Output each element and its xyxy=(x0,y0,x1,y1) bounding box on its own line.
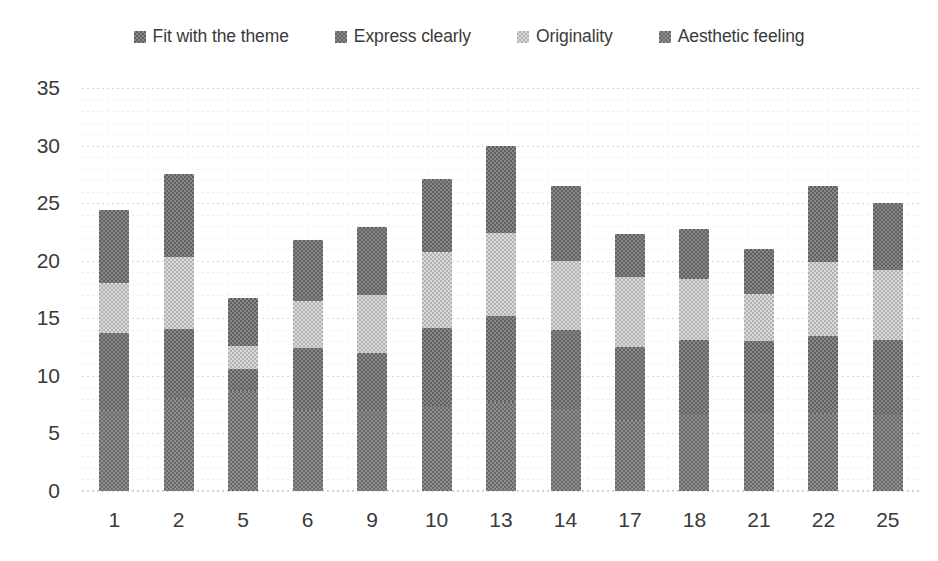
stacked-bar[interactable]: 1 xyxy=(99,210,129,491)
bar-segment-2[interactable] xyxy=(808,262,838,336)
bar-segment-0[interactable] xyxy=(744,413,774,491)
legend-label: Aesthetic feeling xyxy=(678,26,805,47)
stacked-bar-chart: Fit with the themeExpress clearlyOrigina… xyxy=(0,0,938,561)
bar-segment-1[interactable] xyxy=(486,316,516,402)
stacked-bar[interactable]: 18 xyxy=(679,228,709,491)
stacked-bar[interactable]: 5 xyxy=(228,298,258,491)
x-axis-tick-label: 10 xyxy=(425,508,448,532)
bars-container: 125691013141718212225 xyxy=(82,88,920,491)
bar-segment-3[interactable] xyxy=(357,227,387,295)
bar-segment-2[interactable] xyxy=(422,252,452,328)
plot-area: 05101520253035 125691013141718212225 xyxy=(82,88,920,491)
stacked-bar[interactable]: 2 xyxy=(164,174,194,491)
stacked-bar[interactable]: 25 xyxy=(873,203,903,491)
y-axis-tick-label: 30 xyxy=(37,134,82,158)
bar-slot: 13 xyxy=(469,88,533,491)
bar-segment-3[interactable] xyxy=(615,234,645,277)
y-axis-tick-label: 35 xyxy=(37,76,82,100)
bar-segment-3[interactable] xyxy=(551,186,581,261)
bar-segment-0[interactable] xyxy=(486,402,516,491)
bar-segment-1[interactable] xyxy=(873,340,903,415)
bar-segment-3[interactable] xyxy=(99,210,129,283)
bar-segment-3[interactable] xyxy=(164,174,194,257)
stacked-bar[interactable]: 9 xyxy=(357,227,387,491)
bar-segment-2[interactable] xyxy=(551,261,581,330)
bar-segment-3[interactable] xyxy=(744,249,774,294)
bar-segment-2[interactable] xyxy=(873,270,903,340)
bar-segment-2[interactable] xyxy=(293,301,323,348)
x-axis-tick-label: 1 xyxy=(108,508,120,532)
legend-item-2[interactable]: Originality xyxy=(517,26,613,47)
bar-segment-0[interactable] xyxy=(808,413,838,491)
bar-segment-0[interactable] xyxy=(551,409,581,491)
bar-segment-1[interactable] xyxy=(422,328,452,407)
stacked-bar[interactable]: 13 xyxy=(486,146,516,491)
stacked-bar[interactable]: 14 xyxy=(551,186,581,491)
bar-slot: 5 xyxy=(211,88,275,491)
bar-segment-0[interactable] xyxy=(99,410,129,491)
bar-slot: 22 xyxy=(791,88,855,491)
bar-segment-0[interactable] xyxy=(679,415,709,491)
bar-segment-3[interactable] xyxy=(808,186,838,262)
x-axis-tick-label: 18 xyxy=(683,508,706,532)
square-pattern-marker xyxy=(134,31,146,43)
bar-slot: 17 xyxy=(598,88,662,491)
bar-segment-1[interactable] xyxy=(679,340,709,415)
bar-segment-3[interactable] xyxy=(422,179,452,252)
bar-segment-2[interactable] xyxy=(357,295,387,353)
stacked-bar[interactable]: 17 xyxy=(615,234,645,491)
bar-segment-0[interactable] xyxy=(228,391,258,491)
bar-segment-0[interactable] xyxy=(615,420,645,491)
bar-segment-0[interactable] xyxy=(873,415,903,491)
bar-segment-1[interactable] xyxy=(551,330,581,409)
bar-segment-1[interactable] xyxy=(615,347,645,420)
bar-segment-1[interactable] xyxy=(164,329,194,398)
x-axis-tick-label: 9 xyxy=(366,508,378,532)
bar-segment-2[interactable] xyxy=(99,283,129,334)
x-axis-tick-label: 6 xyxy=(302,508,314,532)
y-axis-tick-label: 10 xyxy=(37,364,82,388)
bar-segment-2[interactable] xyxy=(164,257,194,328)
bar-segment-1[interactable] xyxy=(808,336,838,413)
bar-segment-3[interactable] xyxy=(486,146,516,234)
bar-segment-3[interactable] xyxy=(293,240,323,301)
x-axis-tick-label: 5 xyxy=(237,508,249,532)
bar-segment-1[interactable] xyxy=(293,348,323,410)
legend-item-1[interactable]: Express clearly xyxy=(335,26,471,47)
bar-slot: 1 xyxy=(82,88,146,491)
stacked-bar[interactable]: 21 xyxy=(744,249,774,491)
legend-item-0[interactable]: Fit with the theme xyxy=(134,26,289,47)
x-axis-tick-label: 14 xyxy=(554,508,577,532)
x-axis-tick-label: 21 xyxy=(747,508,770,532)
y-axis-tick-label: 25 xyxy=(37,191,82,215)
bar-segment-2[interactable] xyxy=(679,279,709,340)
stacked-bar[interactable]: 10 xyxy=(422,179,452,491)
x-axis-tick-label: 2 xyxy=(173,508,185,532)
bar-segment-2[interactable] xyxy=(615,277,645,347)
bar-segment-1[interactable] xyxy=(744,341,774,412)
bar-slot: 6 xyxy=(275,88,339,491)
stacked-bar[interactable]: 6 xyxy=(293,240,323,491)
bar-segment-2[interactable] xyxy=(744,294,774,341)
bar-segment-2[interactable] xyxy=(486,233,516,316)
bar-segment-0[interactable] xyxy=(164,398,194,491)
x-axis-tick-label: 13 xyxy=(489,508,512,532)
bar-segment-0[interactable] xyxy=(293,410,323,491)
bar-segment-1[interactable] xyxy=(228,369,258,391)
legend-label: Fit with the theme xyxy=(153,26,289,47)
bar-segment-3[interactable] xyxy=(228,298,258,346)
bar-segment-2[interactable] xyxy=(228,346,258,369)
square-pattern-marker xyxy=(659,31,671,43)
stacked-bar[interactable]: 22 xyxy=(808,186,838,491)
bar-segment-3[interactable] xyxy=(873,203,903,270)
bar-segment-0[interactable] xyxy=(422,407,452,491)
bar-segment-1[interactable] xyxy=(357,353,387,411)
bar-segment-0[interactable] xyxy=(357,410,387,491)
x-axis-tick-label: 25 xyxy=(876,508,899,532)
bar-slot: 25 xyxy=(856,88,920,491)
square-pattern-marker xyxy=(335,31,347,43)
bar-segment-1[interactable] xyxy=(99,333,129,410)
bar-segment-3[interactable] xyxy=(679,229,709,280)
bar-slot: 2 xyxy=(146,88,210,491)
legend-item-3[interactable]: Aesthetic feeling xyxy=(659,26,805,47)
